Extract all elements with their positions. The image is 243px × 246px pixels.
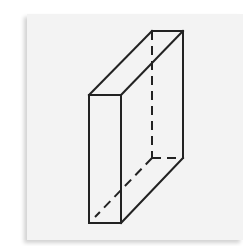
bottom-right-edge (121, 158, 183, 223)
hidden-bottom-left-edge (95, 158, 152, 217)
front-face (89, 95, 121, 223)
top-left-edge (89, 31, 152, 95)
prism-diagram (0, 0, 243, 246)
